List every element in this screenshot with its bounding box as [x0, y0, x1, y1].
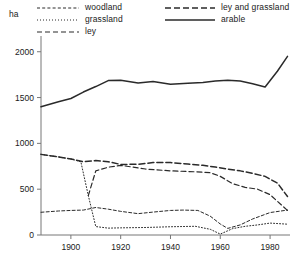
chart-axes [37, 36, 290, 239]
series-line-arable [41, 56, 288, 106]
x-tick-label: 1960 [211, 242, 230, 252]
line-chart-plot: 050010001500200019001920194019601980 [0, 0, 296, 258]
x-tick-label: 1980 [261, 242, 280, 252]
y-tick-label: 1000 [15, 138, 34, 148]
x-tick-label: 1920 [111, 242, 130, 252]
series-line-ley [88, 165, 287, 210]
chart-tick-labels: 050010001500200019001920194019601980 [15, 47, 280, 252]
y-tick-label: 2000 [15, 47, 34, 57]
y-tick-label: 1500 [15, 93, 34, 103]
series-line-grassland [41, 154, 288, 234]
x-tick-label: 1940 [161, 242, 180, 252]
chart-page: ha woodland ley and grassland grassland … [0, 0, 296, 258]
y-tick-label: 0 [29, 230, 34, 240]
y-tick-label: 500 [20, 184, 34, 194]
chart-series-lines [41, 56, 288, 234]
x-tick-label: 1900 [61, 242, 80, 252]
series-line-ley-and-grassland [41, 154, 288, 196]
